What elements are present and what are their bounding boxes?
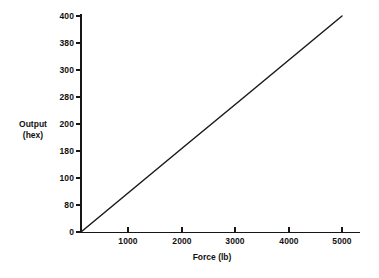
y-axis-title-line-1: Output bbox=[19, 119, 47, 130]
y-tick-label-80: 80 bbox=[52, 201, 74, 210]
x-axis-title: Force (lb) bbox=[193, 252, 232, 263]
x-tick-label-5000: 5000 bbox=[332, 237, 351, 246]
y-axis-title: Output (hex) bbox=[19, 119, 47, 140]
data-series-output bbox=[81, 16, 342, 232]
y-tick-label-180: 180 bbox=[52, 147, 74, 156]
x-tick-label-4000: 4000 bbox=[279, 237, 298, 246]
y-tick-label-100: 100 bbox=[52, 174, 74, 183]
x-tick-marks bbox=[128, 227, 342, 232]
y-tick-label-200: 200 bbox=[52, 120, 74, 129]
chart-container: 0 80 100 180 200 280 300 380 400 1000 20… bbox=[0, 0, 379, 278]
x-tick-label-3000: 3000 bbox=[225, 237, 244, 246]
y-tick-label-400: 400 bbox=[52, 12, 74, 21]
y-tick-label-0: 0 bbox=[52, 228, 74, 237]
x-tick-label-1000: 1000 bbox=[118, 237, 137, 246]
y-tick-label-300: 300 bbox=[52, 66, 74, 75]
y-axis-title-line-2: (hex) bbox=[19, 130, 47, 141]
y-tick-label-280: 280 bbox=[52, 93, 74, 102]
y-tick-label-380: 380 bbox=[52, 39, 74, 48]
x-tick-label-2000: 2000 bbox=[172, 237, 191, 246]
